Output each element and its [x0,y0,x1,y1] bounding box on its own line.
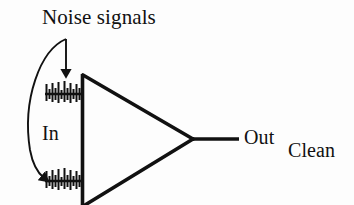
clean-signal-out-line-1: Clean [288,140,336,161]
noise-signals-label: Noise signals [42,6,156,28]
output-label: Out [244,127,274,148]
amplifier-lower-edge [85,139,193,205]
noise-arrow-to-lower-input [28,39,66,178]
lower-noise-trace [45,168,82,190]
noise-rejection-figure: Noise signals In Out Clean signal out [0,0,354,205]
amplifier-triangle [83,75,193,205]
clean-signal-out-line-2: signal [288,204,336,205]
upper-noise-spikes [47,81,80,103]
input-label: In [42,123,59,144]
upper-noise-trace [45,81,82,103]
lower-noise-spikes [47,168,80,190]
amplifier-upper-edge [83,75,193,139]
clean-signal-out-label: Clean signal out [288,98,336,205]
